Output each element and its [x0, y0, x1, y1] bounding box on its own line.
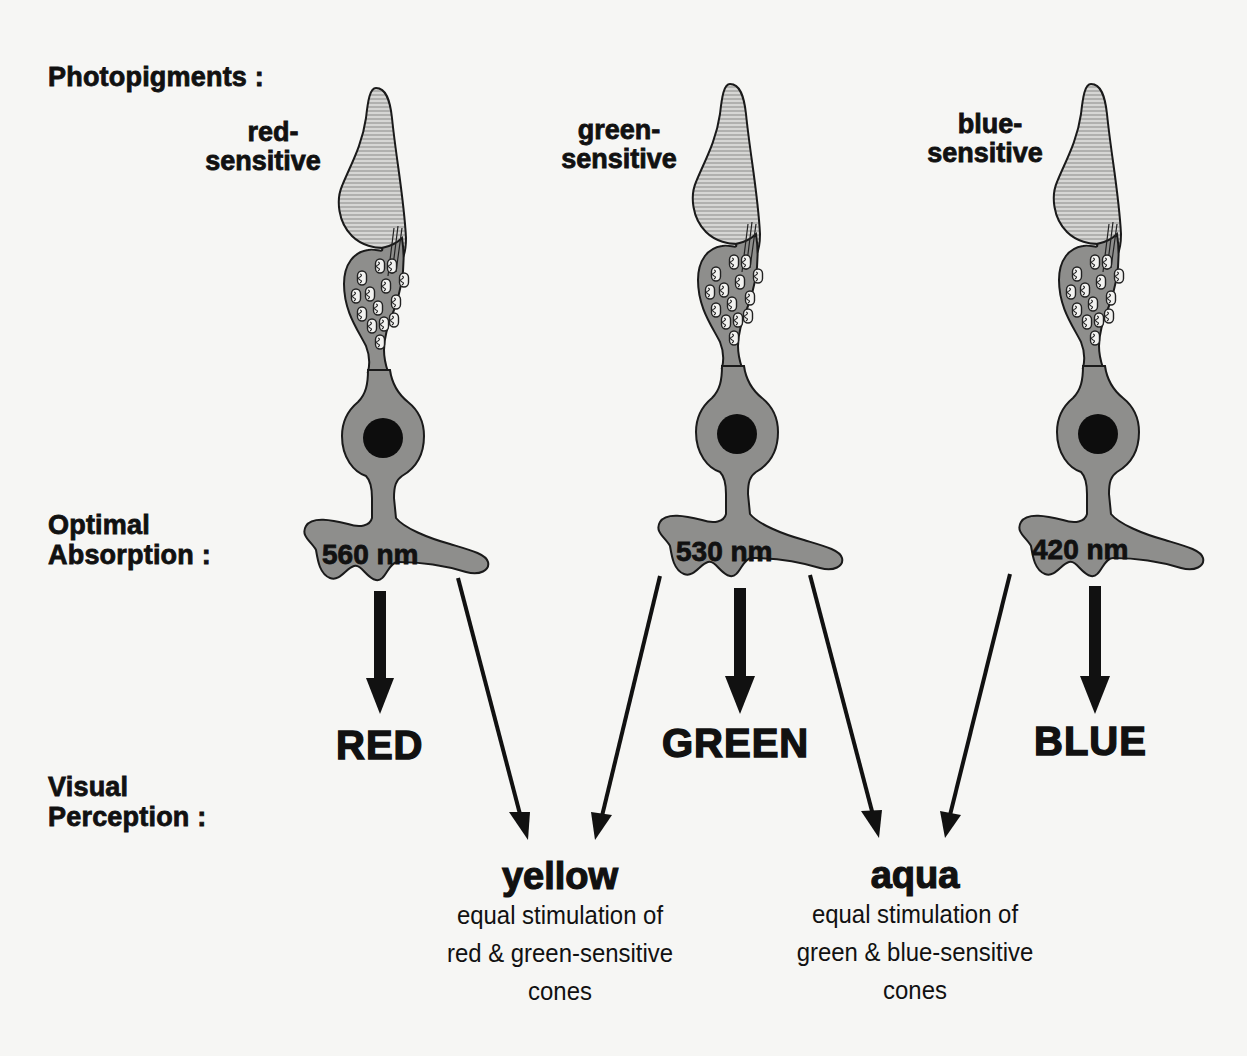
green-to-aqua-arrow-icon: [810, 575, 882, 838]
yellow-mixture-desc-line1: equal stimulation of: [404, 896, 717, 934]
blue-sensitive-label: blue- sensitive: [900, 110, 1070, 168]
green-sensitive-line2: sensitive: [534, 145, 704, 174]
green-sensitive-label: green- sensitive: [534, 116, 704, 174]
visual-perception-line1: Visual: [48, 772, 206, 802]
blue-sensitive-line2: sensitive: [900, 139, 1070, 168]
blue-to-aqua-arrow-icon: [940, 574, 1010, 838]
blue-perception-label: BLUE: [1034, 720, 1147, 762]
visual-perception-label: Visual Perception :: [48, 772, 206, 832]
aqua-mixture-desc-line3: cones: [759, 971, 1072, 1009]
aqua-mixture-name: aqua: [745, 855, 1085, 895]
visual-perception-line2: Perception :: [48, 802, 206, 832]
yellow-mixture-desc-line2: red & green-sensitive: [404, 934, 717, 972]
red-sensitive-label: red- sensitive: [178, 118, 348, 176]
red-perception-label: RED: [336, 724, 423, 766]
aqua-mixture-desc-line2: green & blue-sensitive: [759, 933, 1072, 971]
green-to-yellow-arrow-icon: [591, 576, 660, 840]
blue-absorption-value: 420 nm: [1032, 535, 1129, 565]
optimal-absorption-line1: Optimal: [48, 510, 211, 540]
aqua-mixture-desc-line1: equal stimulation of: [759, 895, 1072, 933]
optimal-absorption-line2: Absorption :: [48, 540, 211, 570]
green-absorption-value: 530 nm: [676, 537, 773, 567]
red-sensitive-line1: red-: [178, 118, 348, 147]
blue-arrow-icon: [1080, 586, 1110, 714]
yellow-mixture-desc-line3: cones: [404, 972, 717, 1010]
photopigments-label: Photopigments :: [48, 62, 264, 92]
blue-sensitive-line1: blue-: [900, 110, 1070, 139]
yellow-mixture-name: yellow: [390, 856, 730, 896]
red-sensitive-line2: sensitive: [178, 147, 348, 176]
green-perception-label: GREEN: [662, 722, 809, 764]
red-arrow-icon: [366, 591, 394, 714]
red-absorption-value: 560 nm: [322, 540, 419, 570]
red-to-yellow-arrow-icon: [458, 578, 530, 840]
aqua-mixture: aqua equal stimulation of green & blue-s…: [745, 855, 1085, 1009]
optimal-absorption-label: Optimal Absorption :: [48, 510, 211, 570]
green-arrow-icon: [725, 588, 755, 714]
yellow-mixture: yellow equal stimulation of red & green-…: [390, 856, 730, 1010]
green-sensitive-line1: green-: [534, 116, 704, 145]
